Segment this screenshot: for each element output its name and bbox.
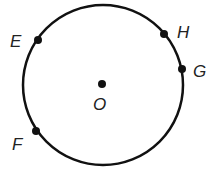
center-point-o [98,80,106,88]
point-h [160,30,168,38]
point-g [178,65,186,73]
point-e [34,36,42,44]
label-f: F [12,135,24,154]
label-e: E [10,32,22,51]
label-o: O [93,95,106,114]
point-f [32,127,40,135]
circle-diagram: E H G F O [0,0,213,169]
label-g: G [193,62,206,81]
label-h: H [177,23,190,42]
